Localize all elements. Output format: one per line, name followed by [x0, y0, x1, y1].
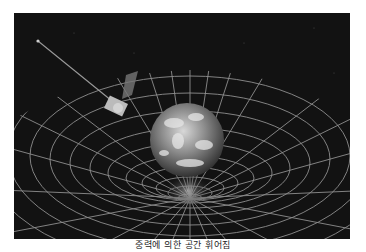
spacetime-svg: [14, 13, 350, 239]
spacetime-illustration: [14, 13, 350, 239]
figure-caption: 중력에 의한 공간 휘어짐: [0, 239, 366, 252]
funnel-glow: [162, 173, 214, 209]
beam-source: [36, 39, 39, 42]
